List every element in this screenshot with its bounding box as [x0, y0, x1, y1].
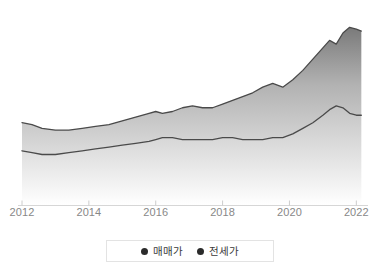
x-axis-label: 2018 — [210, 206, 235, 218]
chart-plot-area — [0, 0, 379, 215]
x-axis-label: 2016 — [143, 206, 168, 218]
legend-dot-jeonse — [197, 248, 204, 255]
legend-label-jeonse: 전세가 — [209, 246, 239, 257]
legend-item-jeonse[interactable]: 전세가 — [197, 246, 239, 257]
x-axis-label: 2022 — [344, 206, 369, 218]
legend-dot-maemae — [141, 248, 148, 255]
x-axis-label: 2012 — [10, 206, 35, 218]
x-axis-label: 2014 — [76, 206, 101, 218]
x-axis-label: 2020 — [277, 206, 302, 218]
bottom-spacer — [0, 268, 379, 274]
legend-label-maemae: 매매가 — [153, 246, 183, 257]
chart-legend: 매매가 전세가 — [106, 240, 274, 262]
legend-item-maemae[interactable]: 매매가 — [141, 246, 183, 257]
price-trend-chart: 201220142016201820202022 매매가 전세가 — [0, 0, 379, 274]
